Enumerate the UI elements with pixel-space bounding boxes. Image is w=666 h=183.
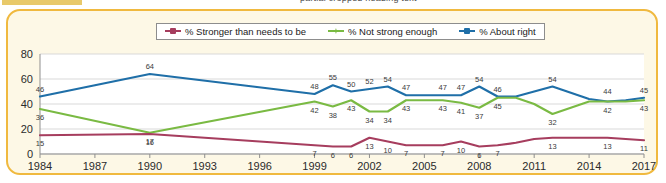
svg-text:13: 13 xyxy=(548,142,556,151)
svg-text:2011: 2011 xyxy=(522,160,546,172)
svg-text:50: 50 xyxy=(347,80,355,89)
svg-text:47: 47 xyxy=(402,83,410,92)
svg-text:2008: 2008 xyxy=(467,160,491,172)
svg-text:2005: 2005 xyxy=(412,160,436,172)
svg-text:34: 34 xyxy=(365,116,373,125)
svg-text:11: 11 xyxy=(640,144,648,153)
svg-text:1984: 1984 xyxy=(28,160,52,172)
svg-text:7: 7 xyxy=(495,149,499,158)
svg-text:6: 6 xyxy=(331,151,335,160)
x-axis-ticks: 1984198719901993199619992002200520082011… xyxy=(28,160,656,172)
svg-text:48: 48 xyxy=(310,82,318,91)
svg-text:47: 47 xyxy=(438,83,446,92)
chart-card: % Stronger than needs to be % Not strong… xyxy=(6,9,658,175)
svg-text:47: 47 xyxy=(457,83,465,92)
svg-text:34: 34 xyxy=(384,116,392,125)
svg-text:40: 40 xyxy=(21,98,33,110)
svg-text:1987: 1987 xyxy=(83,160,107,172)
svg-text:20: 20 xyxy=(21,123,33,135)
svg-text:32: 32 xyxy=(548,118,556,127)
svg-text:0: 0 xyxy=(27,148,33,160)
svg-text:54: 54 xyxy=(475,75,483,84)
svg-text:42: 42 xyxy=(603,106,611,115)
svg-text:54: 54 xyxy=(548,75,556,84)
svg-text:37: 37 xyxy=(475,112,483,121)
svg-text:2002: 2002 xyxy=(357,160,381,172)
svg-text:43: 43 xyxy=(347,104,355,113)
svg-text:7: 7 xyxy=(404,149,408,158)
svg-text:54: 54 xyxy=(384,75,392,84)
svg-text:16: 16 xyxy=(146,138,154,147)
top-tab-marker xyxy=(2,0,82,5)
svg-text:6: 6 xyxy=(477,151,481,160)
svg-text:64: 64 xyxy=(146,62,154,71)
svg-text:36: 36 xyxy=(36,113,44,122)
svg-text:55: 55 xyxy=(329,73,337,82)
svg-text:1999: 1999 xyxy=(302,160,326,172)
svg-text:52: 52 xyxy=(365,77,373,86)
svg-text:2017: 2017 xyxy=(632,160,656,172)
top-clipped-strip: partial cropped heading text xyxy=(0,0,666,9)
svg-text:6: 6 xyxy=(349,151,353,160)
svg-text:13: 13 xyxy=(365,142,373,151)
svg-text:10: 10 xyxy=(457,146,465,155)
svg-text:10: 10 xyxy=(384,146,392,155)
chart-svg: 020406080 198419871990199319961999200220… xyxy=(8,11,660,177)
svg-text:42: 42 xyxy=(310,106,318,115)
svg-text:43: 43 xyxy=(438,104,446,113)
svg-text:1993: 1993 xyxy=(192,160,216,172)
svg-text:1996: 1996 xyxy=(247,160,271,172)
svg-text:45: 45 xyxy=(640,86,648,95)
svg-text:60: 60 xyxy=(21,73,33,85)
svg-text:43: 43 xyxy=(402,104,410,113)
svg-text:7: 7 xyxy=(441,149,445,158)
line-chart-plot: 020406080 198419871990199319961999200220… xyxy=(8,11,660,177)
svg-text:1990: 1990 xyxy=(138,160,162,172)
svg-text:46: 46 xyxy=(493,85,501,94)
y-axis-ticks: 020406080 xyxy=(21,48,33,160)
svg-text:7: 7 xyxy=(312,149,316,158)
svg-text:43: 43 xyxy=(640,104,648,113)
svg-text:80: 80 xyxy=(21,48,33,60)
clipped-heading-text: partial cropped heading text xyxy=(300,0,417,3)
svg-text:41: 41 xyxy=(457,107,465,116)
svg-text:38: 38 xyxy=(329,111,337,120)
svg-text:15: 15 xyxy=(36,139,44,148)
svg-text:46: 46 xyxy=(36,85,44,94)
svg-text:2014: 2014 xyxy=(577,160,601,172)
svg-text:45: 45 xyxy=(493,102,501,111)
svg-text:13: 13 xyxy=(603,142,611,151)
svg-text:44: 44 xyxy=(603,87,611,96)
